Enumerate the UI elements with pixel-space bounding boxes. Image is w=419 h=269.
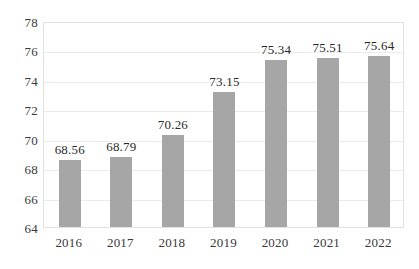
y-axis-tick-label: 74: [4, 75, 38, 88]
bar: [368, 56, 390, 227]
bar-value-label: 75.34: [261, 43, 291, 56]
bar-value-label: 75.64: [364, 39, 394, 52]
bar-value-label: 68.56: [55, 143, 85, 156]
y-axis-tick-label: 76: [4, 45, 38, 58]
x-axis-tick-label: 2016: [55, 236, 82, 249]
bar-value-label: 75.51: [313, 41, 343, 54]
bar: [265, 60, 287, 227]
x-axis-tick-label: 2019: [210, 236, 237, 249]
x-axis: 2016201720182019202020212022: [43, 236, 404, 256]
bar: [110, 157, 132, 227]
bar-value-label: 70.26: [158, 118, 188, 131]
y-axis-tick-label: 68: [4, 163, 38, 176]
y-axis-tick-label: 64: [4, 222, 38, 235]
y-axis-tick-label: 70: [4, 134, 38, 147]
x-axis-tick-label: 2021: [313, 236, 340, 249]
bar-slot: 73.15: [199, 23, 251, 227]
plot-area: 68.5668.7970.2673.1575.3475.5175.64: [43, 22, 404, 228]
bar: [213, 92, 235, 227]
bar: [162, 135, 184, 227]
x-axis-tick-label: 2017: [107, 236, 134, 249]
bar-slot: 75.64: [353, 23, 405, 227]
bar-value-label: 73.15: [209, 75, 239, 88]
y-axis-tick-label: 72: [4, 104, 38, 117]
bar-slot: 70.26: [147, 23, 199, 227]
y-axis-tick-label: 78: [4, 16, 38, 29]
bar: [59, 160, 81, 227]
bar-chart: 6466687072747678 68.5668.7970.2673.1575.…: [0, 0, 419, 269]
bar-slot: 68.56: [44, 23, 96, 227]
bar-slot: 75.34: [250, 23, 302, 227]
bar-slot: 75.51: [302, 23, 354, 227]
bar-slot: 68.79: [96, 23, 148, 227]
x-axis-tick-label: 2018: [159, 236, 186, 249]
bar: [317, 58, 339, 227]
y-axis: 6466687072747678: [0, 0, 38, 269]
x-axis-tick-label: 2020: [262, 236, 289, 249]
x-axis-tick-label: 2022: [365, 236, 392, 249]
bar-value-label: 68.79: [106, 140, 136, 153]
bar-series: 68.5668.7970.2673.1575.3475.5175.64: [44, 23, 403, 227]
y-axis-tick-label: 66: [4, 193, 38, 206]
